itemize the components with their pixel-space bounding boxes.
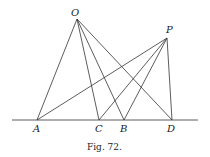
point-label-B: B	[119, 123, 127, 134]
segment-PA	[37, 38, 167, 120]
point-label-A: A	[32, 123, 40, 134]
segment-OC	[77, 19, 99, 120]
point-label-D: D	[166, 123, 175, 134]
point-label-C: C	[95, 123, 103, 134]
segment-PC	[99, 38, 167, 120]
point-label-O: O	[71, 7, 79, 18]
diagram-canvas: O P A C B D Fig. 72.	[0, 0, 210, 157]
segment-PD	[167, 38, 172, 120]
point-label-P: P	[165, 24, 173, 35]
segment-OD	[77, 19, 172, 120]
segment-OA	[37, 19, 77, 120]
figure-caption: Fig. 72.	[87, 142, 122, 152]
